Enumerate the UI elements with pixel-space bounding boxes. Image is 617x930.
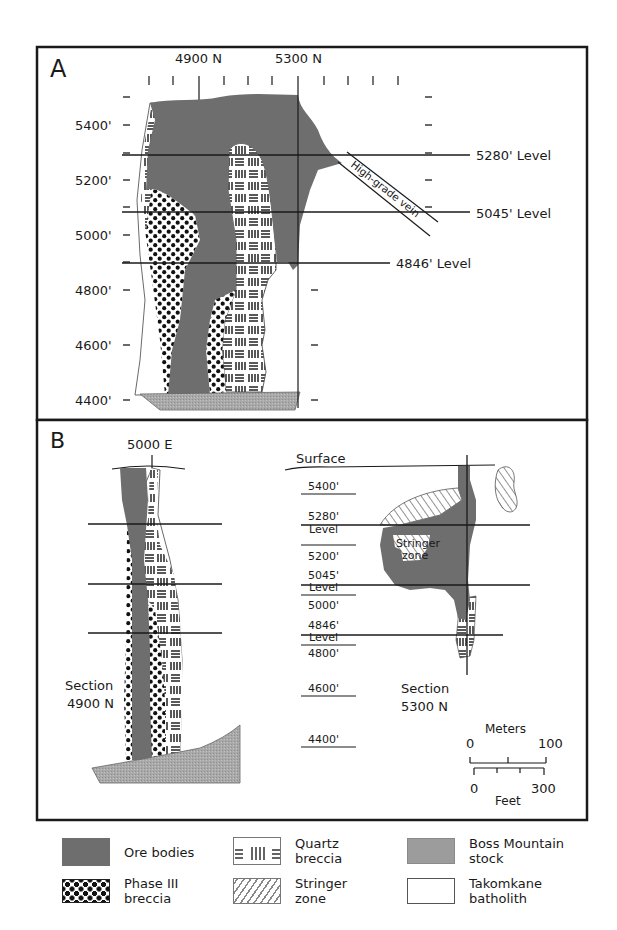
legend-label: Quartz — [295, 836, 339, 851]
boss-mountain-stock-swatch — [407, 838, 455, 864]
elev-label: 5400' — [75, 118, 112, 133]
elev-label: 5000' — [308, 599, 339, 612]
elev-label: 5200' — [308, 550, 339, 563]
geologic-cross-section-figure: A 4900 N 5300 N 5400' 5200' 5000' 4800' … — [0, 0, 617, 826]
elev-label: 4600' — [308, 682, 339, 695]
scale-meters-max: 100 — [538, 736, 563, 751]
panel-b-label: B — [50, 428, 65, 453]
legend-label: zone — [295, 891, 326, 906]
legend-label: stock — [469, 851, 504, 866]
elev-label: Level — [309, 581, 338, 594]
legend-item-phase-iii-breccia: Phase IIIbreccia — [62, 876, 178, 906]
elev-label: 5400' — [308, 480, 339, 493]
section-label-4900n-line1: Section — [65, 678, 113, 693]
elev-label: 5200' — [75, 173, 112, 188]
elev-label: Level — [309, 631, 338, 644]
boss-mountain-stock-a — [140, 392, 300, 410]
panel-a: A 4900 N 5300 N 5400' 5200' 5000' 4800' … — [37, 47, 587, 420]
legend-label: Boss Mountain — [469, 836, 564, 851]
scale-feet-max: 300 — [531, 781, 556, 796]
quartz-breccia-swatch — [233, 837, 281, 865]
panel-a-frame — [37, 47, 587, 420]
legend-label: Stringer — [295, 876, 347, 891]
panel-a-label: A — [50, 55, 67, 83]
scale-meters-min: 0 — [466, 736, 474, 751]
elev-label: 5000' — [75, 228, 112, 243]
level-label-5280: 5280' Level — [476, 148, 551, 163]
legend: Ore bodies Phase IIIbreccia Quartzbrecci… — [0, 826, 617, 926]
legend-label: breccia — [295, 851, 342, 866]
elev-label: 4600' — [75, 338, 112, 353]
elev-label: 4400' — [75, 393, 112, 408]
legend-label: Ore bodies — [124, 845, 194, 860]
scale-feet-title: Feet — [495, 794, 521, 808]
legend-label: breccia — [124, 891, 171, 906]
level-label-4846: 4846' Level — [396, 256, 471, 271]
scale-meters-title: Meters — [485, 722, 526, 736]
legend-item-stringer-zone: Stringerzone — [233, 876, 347, 906]
phase-iii-breccia-swatch — [62, 879, 110, 903]
elev-label: 4800' — [308, 647, 339, 660]
legend-label: batholith — [469, 891, 527, 906]
legend-item-ore-bodies: Ore bodies — [62, 838, 194, 866]
ore-bodies-swatch — [62, 838, 110, 866]
stringer-label-line2: zone — [402, 549, 428, 562]
easting-label: 5000 E — [127, 437, 172, 452]
scale-feet-min: 0 — [470, 781, 478, 796]
takomkane-batholith-swatch — [407, 878, 455, 904]
level-label-5045: 5045' Level — [476, 206, 551, 221]
section-label-5300n-line2: 5300 N — [401, 699, 448, 714]
surface-label: Surface — [296, 451, 346, 466]
elev-label: 4400' — [308, 733, 339, 746]
northing-label-5300: 5300 N — [275, 51, 322, 66]
section-label-4900n-line2: 4900 N — [67, 696, 114, 711]
legend-label: Takomkane — [469, 876, 542, 891]
elev-label: 4800' — [75, 283, 112, 298]
legend-item-quartz-breccia: Quartzbreccia — [233, 836, 342, 866]
panel-b: B 5000 E Section 4900 N — [37, 420, 587, 820]
legend-item-takomkane-batholith: Takomkanebatholith — [407, 876, 542, 906]
elev-label: 5280' — [308, 510, 339, 523]
northing-label-4900: 4900 N — [175, 51, 222, 66]
stringer-zone-swatch — [233, 878, 281, 904]
legend-label: Phase III — [124, 876, 178, 891]
section-label-5300n-line1: Section — [401, 681, 449, 696]
legend-item-boss-mountain-stock: Boss Mountainstock — [407, 836, 564, 866]
